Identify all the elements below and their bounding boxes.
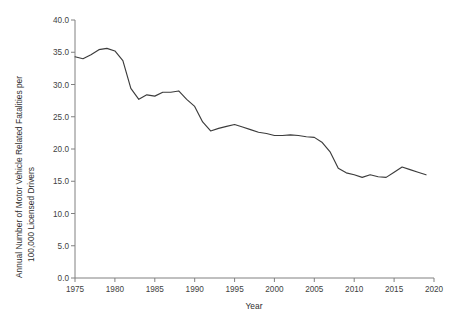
line-chart: Annual Number of Motor Vehicle Related F…	[0, 0, 456, 325]
data-series-line	[75, 48, 426, 177]
x-tick-label: 2020	[425, 285, 444, 294]
y-axis-title-line2: 100,000 Licensed Drivers	[26, 167, 36, 262]
x-tick-label: 2015	[385, 285, 404, 294]
x-tick-label: 1990	[186, 285, 205, 294]
chart-figure: Annual Number of Motor Vehicle Related F…	[0, 0, 456, 325]
y-tick-label: 35.0	[53, 48, 69, 57]
y-tick-label: 30.0	[53, 81, 69, 90]
y-tick-label: 10.0	[53, 210, 69, 219]
y-tick-label: 40.0	[53, 16, 69, 25]
x-tick-label: 2000	[265, 285, 284, 294]
y-axis-title-line1: Annual Number of Motor Vehicle Related F…	[14, 76, 24, 278]
x-axis-title: Year	[246, 301, 263, 311]
y-tick-label: 5.0	[58, 242, 70, 251]
y-tick-label: 15.0	[53, 177, 69, 186]
x-tick-label: 1980	[106, 285, 125, 294]
x-tick-label: 1975	[66, 285, 85, 294]
x-tick-label: 1985	[146, 285, 165, 294]
x-tick-label: 2010	[345, 285, 364, 294]
y-tick-label: 25.0	[53, 113, 69, 122]
y-tick-label: 20.0	[53, 145, 69, 154]
y-tick-label: 0.0	[58, 274, 70, 283]
x-tick-label: 1995	[225, 285, 244, 294]
x-tick-label: 2005	[305, 285, 324, 294]
